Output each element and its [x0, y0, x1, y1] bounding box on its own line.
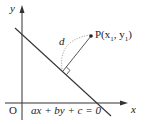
point-p-label: P(x1, y1) [95, 29, 132, 43]
point-p-label-mid: , y [114, 28, 125, 40]
distance-label: d [59, 36, 65, 47]
distance-arc [62, 35, 90, 69]
y-axis-arrow-icon [20, 5, 25, 13]
perpendicular-segment [63, 36, 91, 71]
line-equation-label: ax + by + c = 0 [31, 105, 101, 116]
point-p [89, 34, 93, 38]
point-p-label-end: ) [128, 28, 132, 40]
y-axis-label: y [10, 3, 15, 14]
right-angle-marker [66, 67, 70, 75]
point-p-label-part: P(x [95, 28, 110, 40]
origin-label: O [9, 105, 17, 116]
x-axis-arrow-icon [120, 101, 128, 106]
x-axis-label: x [131, 104, 136, 115]
